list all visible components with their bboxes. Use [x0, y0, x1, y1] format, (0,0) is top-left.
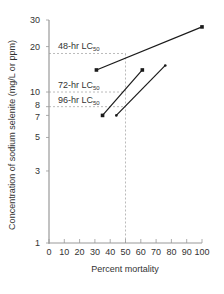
x-tick-label: 30	[90, 247, 100, 257]
lc50-chart: 135781020300102030405060708090100 48-hr …	[0, 0, 224, 294]
x-axis-label: Percent mortality	[91, 264, 159, 274]
data-point-48-hr	[95, 68, 99, 72]
data-point-96-hr	[164, 64, 167, 67]
x-tick-label: 70	[151, 247, 161, 257]
y-tick-label: 20	[30, 42, 40, 52]
x-tick-label: 40	[105, 247, 115, 257]
y-tick-label: 7	[35, 112, 40, 122]
x-tick-label: 10	[59, 247, 69, 257]
x-tick-label: 80	[166, 247, 176, 257]
lc50-label: 72-hr LC50	[58, 80, 100, 91]
annotation-labels: 48-hr LC5072-hr LC5096-hr LC50	[58, 41, 100, 105]
x-tick-label: 50	[120, 247, 130, 257]
x-tick-label: 20	[75, 247, 85, 257]
lc50-subscript: 50	[93, 85, 100, 91]
y-tick-label: 5	[35, 132, 40, 142]
series-group	[95, 25, 204, 117]
y-axis-label: Concentration of sodium selenite (mg/L o…	[7, 40, 17, 230]
x-tick-label: 90	[182, 247, 192, 257]
x-tick-label: 0	[46, 247, 51, 257]
data-point-72-hr	[141, 68, 145, 72]
y-tick-label: 1	[35, 238, 40, 248]
data-point-96-hr	[115, 114, 118, 117]
x-tick-label: 100	[194, 247, 209, 257]
data-point-48-hr	[200, 25, 204, 29]
x-tick-label: 60	[136, 247, 146, 257]
lc50-label: 48-hr LC50	[58, 41, 100, 52]
y-tick-label: 8	[35, 100, 40, 110]
lc50-subscript: 50	[93, 100, 100, 106]
y-tick-label: 10	[30, 87, 40, 97]
data-point-72-hr	[101, 114, 105, 118]
y-tick-label: 3	[35, 166, 40, 176]
lc50-subscript: 50	[93, 46, 100, 52]
axes: 135781020300102030405060708090100	[30, 15, 210, 257]
lc50-label: 96-hr LC50	[58, 95, 100, 106]
series-line-48-hr	[96, 27, 202, 70]
y-tick-label: 30	[30, 15, 40, 25]
